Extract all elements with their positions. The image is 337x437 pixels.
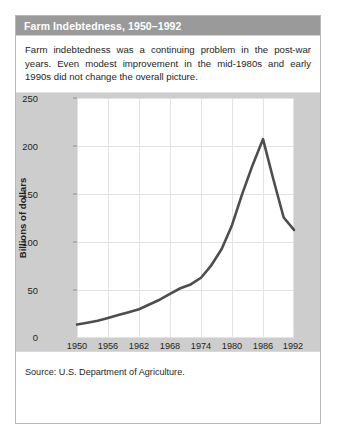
y-axis-tick-mark — [73, 241, 77, 242]
y-axis-tick-label: 150 — [15, 188, 38, 199]
y-axis-tick-label: 250 — [15, 92, 38, 103]
plot-area — [77, 98, 294, 338]
source-footer: Source: U.S. Department of Agriculture. — [16, 351, 320, 379]
figure-title-bar: Farm Indebtedness, 1950–1992 — [16, 16, 320, 36]
data-series-line — [77, 98, 294, 338]
y-axis-tick-label: 100 — [15, 236, 38, 247]
chart-area: Billions of dollars 250 200 150 100 50 0 — [16, 92, 320, 351]
y-axis-tick-label: 50 — [15, 284, 38, 295]
y-axis-tick-label: 0 — [15, 331, 38, 342]
caption-text: Farm indebtedness was a continuing probl… — [25, 43, 311, 84]
x-axis-tick-label: 1992 — [273, 341, 313, 351]
page-title: Farm Indebtedness, 1950–1992 — [24, 20, 181, 32]
figure-caption: Farm indebtedness was a continuing probl… — [16, 36, 320, 92]
y-axis-tick-mark — [73, 97, 77, 98]
y-axis-tick-mark — [73, 145, 77, 146]
y-axis-tick-mark — [73, 289, 77, 290]
y-axis-tick-mark — [73, 193, 77, 194]
figure-panel: Farm Indebtedness, 1950–1992 Farm indebt… — [15, 15, 321, 424]
y-axis-tick-label: 200 — [15, 140, 38, 151]
source-text: Source: U.S. Department of Agriculture. — [25, 367, 185, 377]
